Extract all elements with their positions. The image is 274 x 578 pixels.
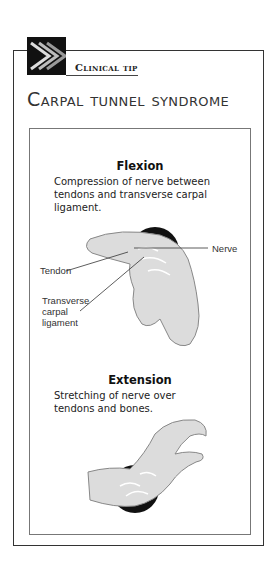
page-title: Carpal tunnel syndrome [27,88,229,110]
flexion-title: Flexion [30,159,250,173]
extension-wrist-illustration [30,414,252,529]
flexion-description: Compression of nerve between tendons and… [54,175,214,214]
chevron-logo-icon [27,37,66,75]
ligament-label-2: carpal [42,306,68,317]
ligament-label-3: ligament [42,317,78,328]
extension-title: Extension [30,373,250,387]
badge-divider [66,75,138,76]
ligament-label-1: Transverse [42,295,89,306]
illustration-panel: Flexion Compression of nerve between ten… [29,128,251,535]
flexion-wrist-illustration [30,219,252,359]
clinical-tip-label: Clinical tip [75,62,138,73]
nerve-label: Nerve [212,243,237,254]
extension-description: Stretching of nerve over tendons and bon… [54,389,214,415]
tendon-label: Tendon [40,265,71,276]
